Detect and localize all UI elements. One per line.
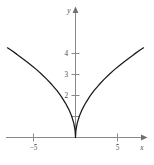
- x-axis-arrow-icon: [141, 135, 148, 141]
- x-tick-label-pos5: 5: [116, 144, 120, 152]
- x-tick-label-neg5: −5: [30, 144, 38, 152]
- y-tick-label-4: 4: [64, 50, 68, 58]
- figure-container: −5 5 2 3 4 x y: [0, 0, 154, 165]
- y-tick-label-2: 2: [64, 92, 68, 100]
- x-axis-label: x: [139, 143, 144, 152]
- y-axis-label: y: [66, 6, 71, 15]
- y-tick-label-3: 3: [64, 71, 68, 79]
- graph-plot: −5 5 2 3 4 x y: [0, 0, 154, 165]
- y-axis-arrow-icon: [73, 7, 79, 14]
